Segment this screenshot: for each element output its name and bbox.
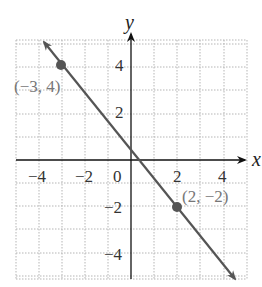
data-point — [56, 60, 66, 70]
data-line — [44, 42, 140, 161]
coordinate-plane: x y −4 −2 0 2 4 4 2 −2 −4 (−3, 4) (2, −2… — [0, 0, 262, 287]
y-tick-label: 2 — [115, 103, 124, 122]
x-tick-label: −4 — [28, 167, 47, 186]
x-axis-label: x — [251, 148, 261, 170]
x-tick-label: −2 — [75, 167, 93, 186]
y-axis-label: y — [123, 11, 134, 34]
x-tick-label: 0 — [113, 167, 122, 186]
y-tick-label: −2 — [104, 198, 122, 217]
y-tick-label: −4 — [104, 245, 123, 264]
x-tick-label: 4 — [218, 167, 227, 186]
x-tick-label: 2 — [173, 167, 182, 186]
point-label: (2, −2) — [182, 187, 228, 206]
data-point — [172, 202, 182, 212]
y-tick-label: 4 — [115, 56, 124, 75]
point-label: (−3, 4) — [14, 77, 60, 96]
